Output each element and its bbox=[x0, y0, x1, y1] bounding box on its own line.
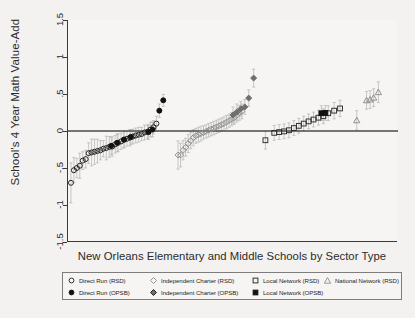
y-tick-label: -1 bbox=[54, 192, 65, 218]
series-markers-6 bbox=[354, 89, 382, 123]
legend-item-filled-square[interactable]: Local Network (OPSB) bbox=[251, 286, 323, 299]
y-tick-label: .5 bbox=[54, 81, 65, 107]
data-point bbox=[161, 98, 166, 103]
data-point bbox=[157, 108, 162, 113]
y-tick-label: 1.5 bbox=[54, 7, 65, 33]
y-axis-title: School's 4 Year Math Value-Add bbox=[9, 0, 21, 237]
series-markers-1 bbox=[109, 98, 166, 149]
data-point bbox=[150, 127, 155, 132]
legend-row-opsb: Direct Run (OPSB)Independent Charter (OP… bbox=[63, 286, 401, 299]
chart-legend: Direct Run (RSD)Independent Charter (RSD… bbox=[62, 272, 402, 300]
series-markers-4 bbox=[263, 106, 342, 143]
legend-label: Direct Run (RSD) bbox=[79, 277, 126, 284]
y-tick-label: -.5 bbox=[54, 155, 65, 181]
plot-frame bbox=[67, 20, 397, 242]
series-markers-5 bbox=[319, 110, 328, 115]
scatter-plot-canvas bbox=[68, 20, 398, 242]
y-tick-label: 0 bbox=[54, 118, 65, 144]
filled-circle-icon bbox=[67, 288, 76, 297]
filled-square-icon bbox=[251, 288, 260, 297]
data-point bbox=[121, 137, 126, 142]
legend-item-filled-diamond[interactable]: Independent Charter (OPSB) bbox=[149, 286, 238, 299]
legend-label: Independent Charter (RSD) bbox=[161, 277, 234, 284]
data-point bbox=[128, 134, 133, 139]
legend-label: Independent Charter (OPSB) bbox=[161, 289, 238, 296]
x-axis-title: New Orleans Elementary and Middle School… bbox=[67, 250, 397, 262]
data-point bbox=[109, 143, 114, 148]
series-markers-3 bbox=[230, 75, 257, 118]
legend-item-filled-circle[interactable]: Direct Run (OPSB) bbox=[67, 286, 130, 299]
error-bars-4 bbox=[264, 100, 342, 149]
error-bars-0 bbox=[69, 116, 158, 203]
open-triangle-icon bbox=[323, 276, 332, 285]
open-diamond-icon bbox=[149, 276, 158, 285]
legend-label: Direct Run (OPSB) bbox=[79, 289, 130, 296]
plot-area bbox=[68, 20, 397, 241]
chart-screenshot: 1.51.50-.5-1-1.5 School's 4 Year Math Va… bbox=[0, 0, 415, 318]
y-tick-label: 1 bbox=[54, 44, 65, 70]
data-point bbox=[251, 75, 257, 81]
data-point bbox=[323, 110, 328, 115]
legend-label: Local Network (OPSB) bbox=[263, 289, 323, 296]
open-circle-icon bbox=[67, 276, 76, 285]
filled-diamond-icon bbox=[149, 288, 158, 297]
data-point bbox=[115, 140, 120, 145]
legend-label: National Network (RSD) bbox=[335, 277, 399, 284]
data-point bbox=[246, 95, 252, 101]
y-tick-label: -1.5 bbox=[54, 229, 65, 255]
legend-label: Local Network (RSD) bbox=[263, 277, 319, 284]
open-square-icon bbox=[251, 276, 260, 285]
